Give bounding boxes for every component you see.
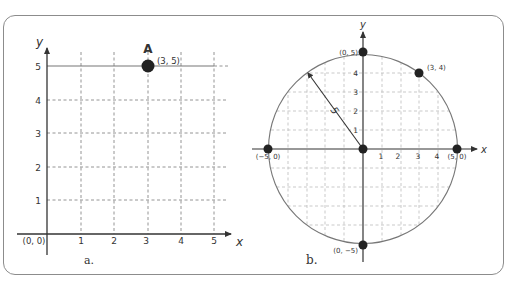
svg-text:(−5, 0): (−5, 0): [256, 153, 281, 161]
graph-b-y-label: y: [359, 19, 367, 30]
point-a-name: A: [143, 42, 153, 56]
svg-text:1: 1: [35, 196, 41, 206]
graph-a-origin-label: (0, 0): [23, 236, 46, 246]
svg-text:2: 2: [111, 236, 117, 246]
point-a: [142, 60, 155, 73]
point-0-neg5: [359, 241, 368, 250]
point-a-label: (3, 5): [157, 56, 180, 66]
svg-text:4: 4: [35, 96, 41, 106]
graph-b-x-ticks: 1 2 3 4: [379, 152, 440, 161]
svg-text:(5, 0): (5, 0): [448, 153, 467, 161]
graph-a-x-ticks: 1 2 3 4 5: [78, 236, 217, 246]
svg-text:(3, 4): (3, 4): [427, 64, 446, 72]
svg-text:1: 1: [78, 236, 84, 246]
svg-text:4: 4: [178, 236, 184, 246]
svg-text:5: 5: [35, 62, 41, 72]
graph-b-x-label: x: [480, 144, 487, 155]
graph-a-y-ticks: 5 4 3 2 1: [35, 62, 41, 206]
point-origin: [359, 145, 368, 154]
svg-text:(0, −5): (0, −5): [333, 247, 358, 255]
figure-canvas: y x 5 4 3 2 1 1 2 3 4 5 (0, 0) A (3, 5) …: [0, 0, 509, 286]
svg-text:3: 3: [353, 88, 358, 97]
svg-text:(0, 5): (0, 5): [339, 49, 358, 57]
point-0-5: [359, 48, 368, 57]
svg-text:2: 2: [35, 163, 41, 173]
svg-text:5: 5: [211, 236, 217, 246]
graph-b-caption: b.: [306, 253, 318, 267]
graph-a-y-label: y: [35, 35, 44, 49]
graph-a-grid: [47, 52, 228, 234]
graph-b: y x 5 4 3 2 1 1 2 3 4 (0, 5) (3, 4) (−5,: [252, 19, 487, 267]
radius-label: 5: [328, 105, 341, 117]
svg-text:2: 2: [396, 152, 401, 161]
svg-text:2: 2: [353, 107, 358, 116]
svg-text:3: 3: [35, 129, 41, 139]
svg-text:3: 3: [143, 236, 149, 246]
graph-b-y-ticks: 4 3 2 1: [353, 69, 358, 135]
svg-text:1: 1: [379, 152, 384, 161]
graph-a-caption: a.: [84, 254, 94, 267]
graph-a-x-label: x: [235, 235, 244, 249]
graph-a: y x 5 4 3 2 1 1 2 3 4 5 (0, 0) A (3, 5) …: [17, 35, 244, 267]
svg-text:1: 1: [353, 126, 358, 135]
svg-text:4: 4: [353, 69, 358, 78]
point-3-4: [415, 69, 424, 78]
svg-text:4: 4: [435, 152, 440, 161]
svg-text:3: 3: [416, 152, 421, 161]
